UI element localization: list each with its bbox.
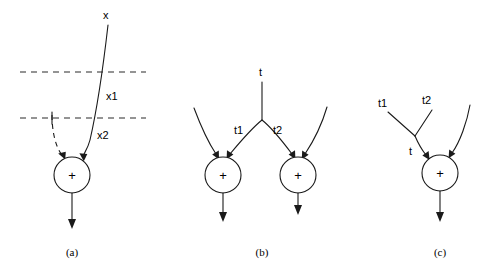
merge-branch-t2	[415, 110, 432, 136]
merged-trunk-t	[415, 136, 426, 155]
signal-path-x2-dashed	[52, 115, 62, 155]
merge-branch-t1	[388, 112, 415, 136]
panel-a: + x x1 x2 (a)	[20, 9, 146, 259]
label-x2: x2	[97, 129, 109, 141]
incoming-curve-right-c-arrowhead	[449, 149, 456, 158]
label-x: x	[103, 9, 109, 21]
output-arrow-b-right-head	[294, 205, 302, 215]
panel-b: + + t t1 t2 (b)	[194, 66, 327, 259]
label-x1: x1	[106, 90, 118, 102]
caption-b: (b)	[256, 246, 269, 259]
output-arrow-a-head	[68, 219, 76, 229]
label-t-b: t	[259, 66, 262, 78]
adder-node-b-left-symbol: +	[219, 168, 227, 183]
label-t1-b: t1	[234, 124, 243, 136]
incoming-curve-right-b	[305, 107, 327, 154]
label-t2-c: t2	[422, 94, 431, 106]
caption-c: (c)	[434, 246, 447, 259]
label-t1-c: t1	[378, 97, 387, 109]
adder-node-c-symbol: +	[436, 166, 444, 181]
adder-node-a-symbol: +	[68, 168, 76, 183]
panel-c: + t1 t2 t (c)	[378, 94, 470, 259]
caption-a: (a)	[66, 246, 79, 259]
label-t-c: t	[409, 145, 412, 157]
incoming-curve-right-c	[452, 105, 470, 153]
figure-container: + x x1 x2 (a)	[0, 0, 488, 280]
adder-node-b-right-symbol: +	[294, 168, 302, 183]
output-arrow-b-left-head	[219, 212, 227, 222]
output-arrow-c-head	[436, 212, 444, 222]
incoming-curve-left-b	[194, 108, 216, 154]
label-t2-b: t2	[273, 124, 282, 136]
signal-flow-diagram: + x x1 x2 (a)	[0, 0, 488, 280]
